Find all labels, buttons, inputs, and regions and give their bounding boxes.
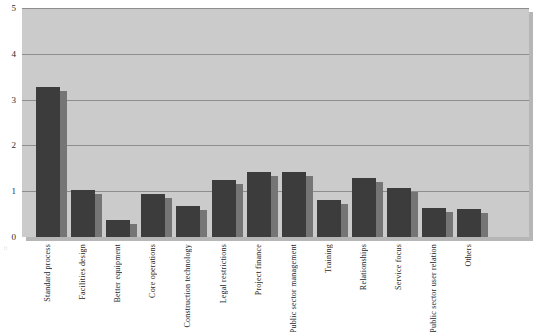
bar-front-face [352,178,376,237]
bar-front-face [106,220,130,237]
x-axis-label: Facilities design [78,244,87,300]
bar-3 [106,216,137,237]
bar-10 [352,174,383,237]
bar-side-face [341,204,348,237]
bar-side-face [130,224,137,237]
y-tick-label: 0 [12,232,17,242]
bar-side-face [376,182,383,237]
bar-5 [176,202,207,237]
y-tick-label: 5 [12,3,17,13]
bar-front-face [176,206,200,237]
bar-6 [212,176,243,237]
bar-side-face [165,198,172,238]
x-axis-label: Others [464,244,473,267]
y-axis: 012345 [0,8,20,237]
bar-side-face [200,210,207,237]
x-axis-label: Construction technology [183,244,192,327]
bar-front-face [422,208,446,237]
bar-8 [282,168,313,237]
bar-front-face [247,172,271,237]
bar-4 [141,190,172,238]
bar-chart: 012345 Standard processFacilities design… [0,0,539,332]
x-axis-label: Service focus [394,244,403,290]
bar-side-face [446,212,453,237]
bar-side-face [271,176,278,237]
x-axis-label: Training [324,244,333,273]
x-axis-label: Public sector user relation [429,244,438,332]
x-axis-label: Public sector management [289,244,298,332]
bar-2 [71,186,102,237]
x-axis: Standard processFacilities designBetter … [22,244,529,332]
y-tick-label: 4 [12,49,17,59]
y-tick-label: 3 [12,95,17,105]
x-axis-label: Standard process [43,244,52,302]
bar-front-face [457,209,481,237]
bar-front-face [317,200,341,237]
bar-front-face [387,188,411,237]
x-axis-label: Legal restrictions [219,244,228,303]
x-axis-label: Core operations [148,244,157,298]
bars-layer [22,8,529,237]
bar-side-face [411,192,418,237]
bar-13 [457,205,488,237]
x-axis-label: Project finance [254,244,263,295]
bar-7 [247,168,278,237]
bar-front-face [282,172,306,237]
bar-9 [317,196,348,237]
bar-1 [36,83,67,237]
bar-12 [422,204,453,237]
x-axis-label: Better equipment [113,244,122,303]
bar-side-face [236,184,243,237]
bar-front-face [212,180,236,237]
bar-front-face [36,87,60,237]
bar-side-face [60,91,67,237]
bar-front-face [141,194,165,238]
bar-11 [387,184,418,237]
x-axis-label: Relationships [359,244,368,290]
y-tick-label: 1 [12,186,17,196]
y-tick-label: 2 [12,140,17,150]
bar-side-face [95,194,102,237]
bar-front-face [71,190,95,237]
bar-side-face [481,213,488,237]
edge-artifact-text: :: [1,246,9,250]
bar-side-face [306,176,313,237]
